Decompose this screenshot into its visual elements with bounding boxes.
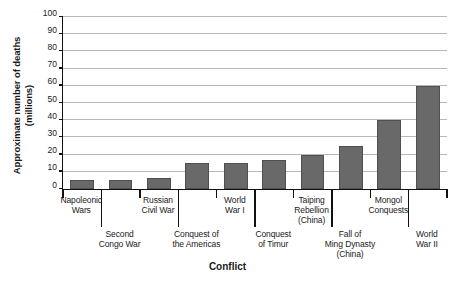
bar (109, 180, 133, 189)
x-label-line: World (397, 229, 455, 239)
bar (262, 160, 286, 189)
x-label-line: Wars (51, 205, 111, 215)
x-label-line: War II (397, 239, 455, 249)
x-axis-category-label: Conquestof Timur (243, 229, 303, 249)
bar (416, 86, 440, 189)
x-label-line: Civil War (128, 205, 188, 215)
bar (185, 163, 209, 189)
x-axis-category-label: MongolConquests (359, 195, 419, 215)
bar (224, 163, 248, 189)
x-label-line: Second (90, 229, 150, 239)
x-label-line: of Timur (243, 239, 303, 249)
y-tick-label: 100 (23, 9, 63, 18)
bar-chart: Approximate number of deaths (millions) … (0, 0, 455, 287)
x-label-line: Conquest (243, 229, 303, 239)
x-label-line: Conquests (359, 205, 419, 215)
x-tick-mark (446, 189, 447, 198)
x-label-line: World (205, 195, 265, 205)
y-tick-label: 30 (23, 129, 63, 138)
x-axis-category-label: Conquest ofthe Americas (167, 229, 227, 249)
x-axis-category-label: RussianCivil War (128, 195, 188, 215)
y-axis-title-line1: Approximate number of deaths (11, 37, 22, 175)
x-axis-category-label: NapoleonicWars (51, 195, 111, 215)
y-tick-label: 90 (23, 26, 63, 35)
bar (377, 120, 401, 189)
x-label-line: (China) (282, 215, 342, 225)
x-axis-category-label: WorldWar I (205, 195, 265, 215)
x-label-line: Taiping (282, 195, 342, 205)
y-tick-label: 0 (23, 181, 63, 190)
x-label-line: Congo War (90, 239, 150, 249)
x-label-line: War I (205, 205, 265, 215)
x-axis-category-label: WorldWar II (397, 229, 455, 249)
x-label-line: (China) (320, 249, 380, 259)
x-label-line: the Americas (167, 239, 227, 249)
y-tick-label: 40 (23, 112, 63, 121)
y-tick-label: 70 (23, 60, 63, 69)
bar (70, 180, 94, 189)
x-label-line: Conquest of (167, 229, 227, 239)
plot-area: 0102030405060708090100 (62, 17, 447, 190)
y-tick-label: 60 (23, 77, 63, 86)
bar (147, 178, 171, 189)
bar-series (63, 17, 447, 189)
x-axis-labels: NapoleonicWarsSecondCongo WarRussianCivi… (62, 189, 446, 269)
x-label-line: Mongol (359, 195, 419, 205)
x-axis-category-label: Fall ofMing Dynasty(China) (320, 229, 380, 259)
y-tick-label: 10 (23, 163, 63, 172)
bar (301, 155, 325, 189)
x-label-line: Fall of (320, 229, 380, 239)
x-label-line: Russian (128, 195, 188, 205)
x-label-line: Napoleonic (51, 195, 111, 205)
y-tick-label: 80 (23, 43, 63, 52)
y-tick-label: 50 (23, 95, 63, 104)
x-label-line: Rebellion (282, 205, 342, 215)
x-axis-category-label: SecondCongo War (90, 229, 150, 249)
x-axis-category-label: TaipingRebellion(China) (282, 195, 342, 225)
bar (339, 146, 363, 189)
x-label-line: Ming Dynasty (320, 239, 380, 249)
y-tick-label: 20 (23, 146, 63, 155)
x-axis-title: Conflict (0, 261, 455, 272)
